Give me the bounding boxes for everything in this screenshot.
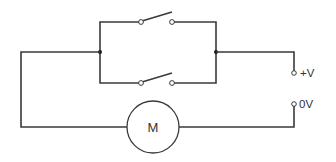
wire-top-left	[100, 22, 139, 52]
switch-top-contact-right	[170, 20, 175, 25]
switch-top-contact-left	[139, 20, 144, 25]
switch-bottom	[139, 73, 175, 85]
wire-to-positive	[216, 52, 294, 71]
terminal-ground: 0V	[292, 98, 314, 110]
parallel-switch-block	[98, 12, 218, 85]
wire-left-loop	[21, 52, 127, 127]
switch-bottom-blade	[142, 73, 172, 82]
wire-right-rail	[174, 22, 216, 83]
terminal-ground-label: 0V	[299, 98, 313, 110]
wire-to-ground	[179, 106, 294, 127]
switch-top	[139, 12, 175, 24]
circuit-diagram: M +V 0V	[0, 0, 336, 162]
switch-top-blade	[142, 12, 172, 21]
terminal-positive-label: +V	[300, 67, 315, 79]
terminal-ground-node	[292, 102, 297, 107]
terminal-positive: +V	[292, 67, 315, 79]
terminal-positive-node	[292, 71, 297, 76]
switch-bottom-contact-right	[170, 81, 175, 86]
wire-bottom-left	[100, 52, 139, 83]
motor: M	[127, 101, 179, 153]
switch-bottom-contact-left	[139, 81, 144, 86]
motor-label: M	[148, 120, 159, 135]
